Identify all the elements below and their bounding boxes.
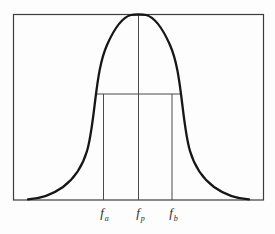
resonance-diagram <box>0 0 275 234</box>
label-f-p-base: f <box>136 205 140 220</box>
label-f-p: fp <box>136 206 144 222</box>
label-f-a-subscript: a <box>105 214 109 223</box>
label-f-b: fb <box>169 206 177 222</box>
label-f-b-subscript: b <box>174 214 178 223</box>
label-f-p-subscript: p <box>141 214 145 223</box>
figure-canvas: fa fp fb <box>0 0 275 234</box>
label-f-a-base: f <box>100 205 104 220</box>
label-f-a: fa <box>100 206 108 222</box>
label-f-b-base: f <box>169 205 173 220</box>
